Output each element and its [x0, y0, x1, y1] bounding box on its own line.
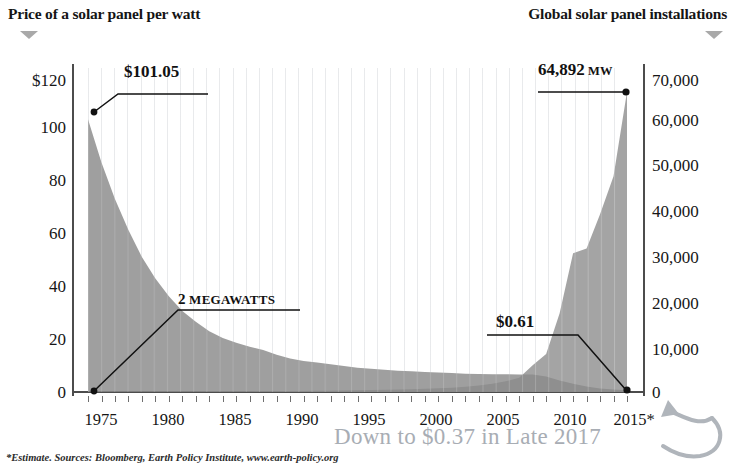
x-axis-minor-tick — [533, 396, 534, 402]
x-axis-minor-tick — [344, 396, 345, 402]
triangle-down-icon-right — [705, 31, 723, 39]
x-axis-minor-tick — [425, 396, 426, 402]
right-ytick-70000: 70,000 — [652, 72, 699, 89]
right-ytick-10000: 10,000 — [652, 341, 699, 358]
xtick-1990: 1990 — [286, 410, 319, 430]
x-axis-minor-tick — [155, 396, 156, 402]
x-axis-minor-tick — [465, 396, 466, 402]
x-axis-minor-tick — [223, 396, 224, 402]
right-chart-title: Global solar panel installations — [528, 5, 727, 23]
footnote-text: *Estimate. Sources: Bloomberg, Earth Pol… — [6, 452, 339, 463]
x-axis-minor-tick — [169, 396, 170, 402]
x-axis-minor-tick — [627, 396, 628, 402]
annotation-price-start: $101.05 — [124, 63, 179, 80]
x-axis-minor-tick — [263, 396, 264, 402]
annotation-install-end: 64,892 MW — [538, 61, 613, 78]
x-axis-minor-tick — [371, 396, 372, 402]
right-ytick-0: 0 — [652, 384, 661, 401]
x-axis-minor-tick — [304, 396, 305, 402]
x-axis-minor-tick — [600, 396, 601, 402]
annotation-price-end-label: $0.61 — [496, 312, 534, 331]
chart-series-areas — [88, 68, 627, 392]
x-axis-minor-tick — [209, 396, 210, 402]
left-axis-spine — [72, 64, 74, 396]
x-axis-minor-tick — [492, 396, 493, 402]
right-ytick-20000: 20,000 — [652, 295, 699, 312]
x-axis-minor-tick — [290, 396, 291, 402]
annotation-install-end-unit: MW — [588, 64, 613, 78]
annotation-price-start-label: $101.05 — [124, 62, 179, 81]
annotation-price-end: $0.61 — [496, 313, 534, 330]
xtick-2015: 2015* — [613, 410, 654, 430]
xtick-1980: 1980 — [152, 410, 185, 430]
x-axis-minor-tick — [506, 396, 507, 402]
right-ytick-30000: 30,000 — [652, 249, 699, 266]
annotation-install-start-number: 2 — [178, 291, 186, 307]
left-chart-title: Price of a solar panel per watt — [8, 5, 200, 23]
x-axis-minor-tick — [385, 396, 386, 402]
left-ytick-20: 20 — [0, 331, 66, 348]
x-axis-minor-tick — [614, 396, 615, 402]
annotation-install-start: 2 MEGAWATTS — [178, 292, 275, 307]
x-axis-minor-tick — [102, 396, 103, 402]
right-ytick-40000: 40,000 — [652, 203, 699, 220]
x-axis-minor-tick — [546, 396, 547, 402]
x-axis-minor-tick — [115, 396, 116, 402]
x-axis-minor-tick — [358, 396, 359, 402]
x-axis-minor-tick — [277, 396, 278, 402]
x-axis-minor-tick — [587, 396, 588, 402]
annotation-install-end-number: 64,892 — [538, 60, 585, 79]
xtick-1975: 1975 — [85, 410, 118, 430]
x-axis-minor-tick — [128, 396, 129, 402]
x-axis-minor-tick — [573, 396, 574, 402]
xtick-1985: 1985 — [219, 410, 252, 430]
x-axis-minor-tick — [560, 396, 561, 402]
left-ytick-100: 100 — [0, 119, 66, 136]
x-axis-minor-tick — [88, 396, 89, 402]
x-axis-minor-tick — [411, 396, 412, 402]
x-axis-minor-tick — [519, 396, 520, 402]
right-axis-spine — [643, 64, 645, 396]
x-axis-minor-tick — [317, 396, 318, 402]
x-axis-minor-tick — [438, 396, 439, 402]
x-axis-minor-tick — [479, 396, 480, 402]
left-ytick-120: $120 — [0, 72, 66, 89]
x-axis-minor-tick — [142, 396, 143, 402]
triangle-down-icon-left — [20, 31, 38, 39]
left-ytick-40: 40 — [0, 278, 66, 295]
left-ytick-80: 80 — [0, 172, 66, 189]
x-axis-minor-tick — [182, 396, 183, 402]
overlay-annotation-note: Down to $0.37 in Late 2017 — [334, 424, 601, 450]
right-ytick-60000: 60,000 — [652, 112, 699, 129]
x-axis-minor-tick — [398, 396, 399, 402]
annotation-install-start-unit: MEGAWATTS — [189, 292, 275, 307]
x-axis-minor-tick — [331, 396, 332, 402]
right-ytick-50000: 50,000 — [652, 157, 699, 174]
x-axis-minor-tick — [236, 396, 237, 402]
left-ytick-60: 60 — [0, 225, 66, 242]
x-axis-minor-tick — [452, 396, 453, 402]
chart-plot-area — [88, 68, 627, 392]
x-axis-minor-tick — [250, 396, 251, 402]
x-axis-minor-tick — [196, 396, 197, 402]
left-ytick-0: 0 — [0, 384, 66, 401]
